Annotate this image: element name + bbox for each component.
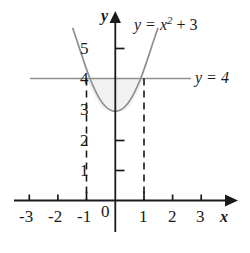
line-equation-label: y = 4: [195, 70, 229, 86]
y-tick-label-1: 1: [80, 162, 89, 179]
origin-label: 0: [101, 203, 110, 220]
parabola-equation-tail: + 3: [173, 16, 198, 33]
y-tick-label-5: 5: [80, 40, 89, 57]
x-tick-label-3: 3: [196, 208, 205, 225]
graph-figure: 5 4 3 2 1 0 -3 -2 -1 1 2 3 x y y = x2 + …: [0, 0, 250, 253]
x-tick-label-minus-2: -2: [48, 208, 62, 225]
x-tick-label-1: 1: [139, 208, 148, 225]
y-axis-label: y: [101, 8, 108, 24]
parabola-equation-label: y = x2 + 3: [134, 15, 198, 33]
x-tick-label-minus-3: -3: [19, 208, 33, 225]
x-axis-arrowhead: [225, 195, 238, 207]
y-axis-arrowhead: [110, 11, 122, 23]
x-tick-label-2: 2: [168, 208, 177, 225]
x-axis-label: x: [220, 209, 228, 225]
y-tick-label-3: 3: [80, 101, 89, 118]
y-tick-label-2: 2: [80, 132, 89, 149]
parabola-equation-base: y = x: [134, 16, 167, 33]
x-tick-label-minus-1: -1: [77, 208, 91, 225]
y-tick-label-4: 4: [80, 70, 89, 87]
coordinate-plot: [0, 0, 250, 253]
